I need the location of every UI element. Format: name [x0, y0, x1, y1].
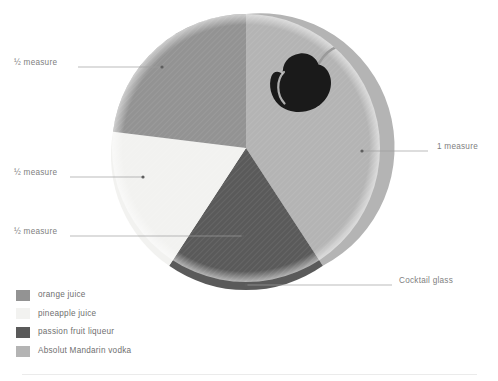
callout-label-absolut-mandarin-vodka: 1 measure: [437, 143, 478, 151]
legend-item-passion-fruit-liqueur[interactable]: passion fruit liqueur: [16, 323, 131, 342]
legend-label-orange-juice: orange juice: [38, 291, 86, 299]
legend-label-pineapple-juice: pineapple juice: [38, 310, 96, 318]
callout-label-cocktail-glass: Cocktail glass: [399, 277, 453, 285]
footer-divider: [22, 374, 477, 375]
callout-label-pineapple-juice: ½ measure: [14, 169, 57, 177]
callout-label-passion-fruit-liqueur: ½ measure: [14, 228, 57, 236]
cocktail-recipe-pie-chart: ½ measure ½ measure ½ measure 1 measure …: [0, 0, 498, 381]
legend-swatch-absolut-mandarin-vodka: [16, 346, 30, 357]
legend-swatch-passion-fruit-liqueur: [16, 327, 30, 338]
callout-label-orange-juice: ½ measure: [14, 59, 57, 67]
legend-swatch-pineapple-juice: [16, 308, 30, 319]
legend-label-passion-fruit-liqueur: passion fruit liqueur: [38, 328, 114, 336]
legend-swatch-orange-juice: [16, 290, 30, 301]
legend-item-absolut-mandarin-vodka[interactable]: Absolut Mandarin vodka: [16, 342, 131, 361]
legend-label-absolut-mandarin-vodka: Absolut Mandarin vodka: [38, 347, 131, 355]
legend-item-orange-juice[interactable]: orange juice: [16, 286, 131, 305]
chart-legend: orange juice pineapple juice passion fru…: [16, 286, 131, 360]
pie-rim-shading: [112, 14, 380, 282]
pie-segments: [111, 13, 395, 290]
legend-item-pineapple-juice[interactable]: pineapple juice: [16, 305, 131, 324]
